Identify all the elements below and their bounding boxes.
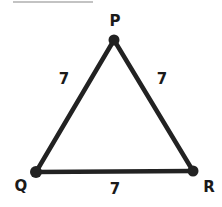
triangle-diagram: P Q R 7 7 7 (0, 0, 222, 207)
side-pq-label: 7 (59, 70, 69, 88)
vertex-q-dot (30, 166, 42, 178)
vertex-q-label: Q (15, 177, 28, 195)
vertex-p-dot (109, 35, 120, 46)
vertex-r-label: R (203, 178, 215, 196)
vertex-p-label: P (110, 12, 121, 30)
side-pr-label: 7 (157, 70, 167, 88)
side-qr-label: 7 (110, 180, 120, 198)
side-qr (36, 171, 193, 172)
vertex-r-dot (188, 166, 199, 177)
side-pr (114, 40, 193, 171)
side-pq (36, 40, 114, 172)
